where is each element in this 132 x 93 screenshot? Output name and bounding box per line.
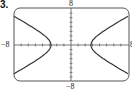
hyperbola-plot [0,0,132,93]
y-max-label: 8 [69,0,73,8]
y-min-label: −8 [66,83,75,91]
plot-frame [14,8,129,81]
x-min-label: −8 [1,41,10,49]
x-max-label: 8 [130,41,132,49]
